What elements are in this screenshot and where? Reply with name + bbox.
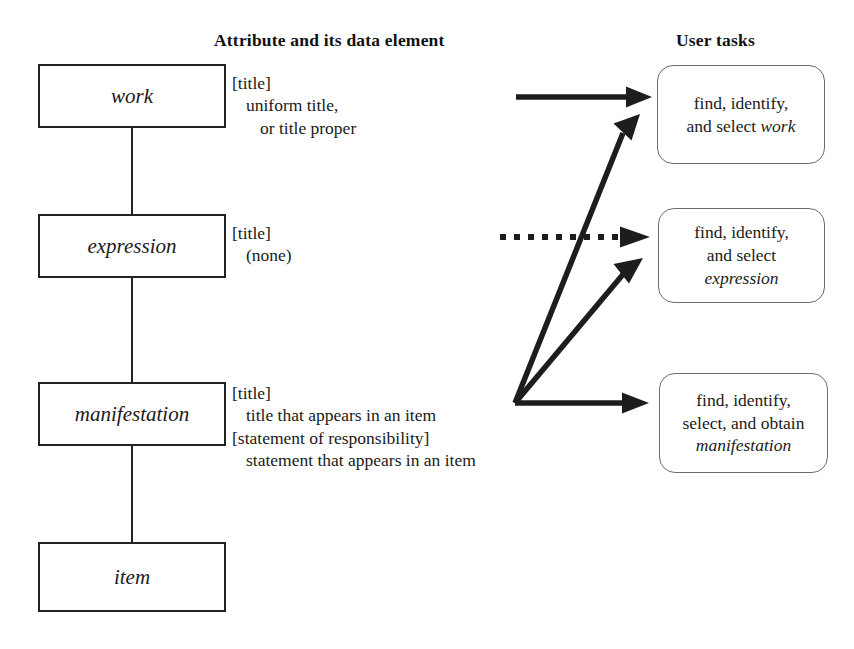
task-expression-line-3: expression [704, 267, 778, 290]
attribute-key-work: [title] [232, 72, 356, 94]
arrow-fan-to-work [515, 114, 640, 403]
task-work-line-2: and select work [687, 115, 796, 138]
attribute-block-manifestation: [title] title that appears in an item [s… [232, 382, 476, 472]
entity-box-work[interactable]: work [38, 64, 226, 128]
arrow-fan-to-manifestation [515, 393, 649, 414]
task-work-line-2-entity: work [760, 116, 795, 136]
column-header-user-tasks: User tasks [676, 30, 755, 51]
task-manifestation-line-1: find, identify, [696, 389, 791, 412]
arrow-expression-dotted [500, 227, 650, 248]
connector-manifestation-to-item [131, 446, 133, 542]
entity-label-work: work [111, 86, 153, 107]
task-expression-line-2: and select [707, 244, 776, 267]
task-box-work[interactable]: find, identify, and select work [657, 65, 825, 164]
attribute-block-work: [title] uniform title, or title proper [232, 72, 356, 139]
column-header-attribute: Attribute and its data element [214, 30, 445, 51]
entity-label-expression: expression [87, 236, 176, 257]
attribute-value-expression-1: (none) [232, 244, 292, 266]
task-box-expression[interactable]: find, identify, and select expression [658, 208, 825, 303]
attribute-value-work-1: uniform title, [232, 94, 356, 116]
connector-expression-to-manifestation [131, 278, 133, 382]
attribute-value-work-2: or title proper [232, 117, 356, 139]
attribute-value-manifestation-1: title that appears in an item [232, 404, 476, 426]
attribute-key-manifestation-1: [title] [232, 382, 476, 404]
attribute-key-expression: [title] [232, 222, 292, 244]
task-expression-line-1: find, identify, [694, 221, 789, 244]
connector-work-to-expression [131, 128, 133, 214]
task-box-manifestation[interactable]: find, identify, select, and obtain manif… [659, 373, 828, 473]
arrow-work-solid [516, 87, 652, 108]
task-manifestation-line-2: select, and obtain [683, 412, 805, 435]
task-work-line-2-plain: and select [687, 116, 761, 136]
task-manifestation-entity: manifestation [696, 435, 791, 455]
task-expression-entity: expression [704, 268, 778, 288]
entity-label-item: item [114, 567, 150, 588]
entity-box-manifestation[interactable]: manifestation [38, 382, 226, 446]
attribute-block-expression: [title] (none) [232, 222, 292, 267]
attribute-key-manifestation-2: [statement of responsibility] [232, 427, 476, 449]
entity-box-expression[interactable]: expression [38, 214, 226, 278]
task-manifestation-line-3: manifestation [696, 434, 791, 457]
arrow-fan-to-expression [515, 258, 643, 403]
entity-box-item[interactable]: item [38, 542, 226, 612]
attribute-value-manifestation-2: statement that appears in an item [232, 449, 476, 471]
entity-label-manifestation: manifestation [75, 404, 189, 425]
task-work-line-1: find, identify, [694, 92, 789, 115]
frbr-diagram: Attribute and its data element User task… [0, 0, 854, 649]
